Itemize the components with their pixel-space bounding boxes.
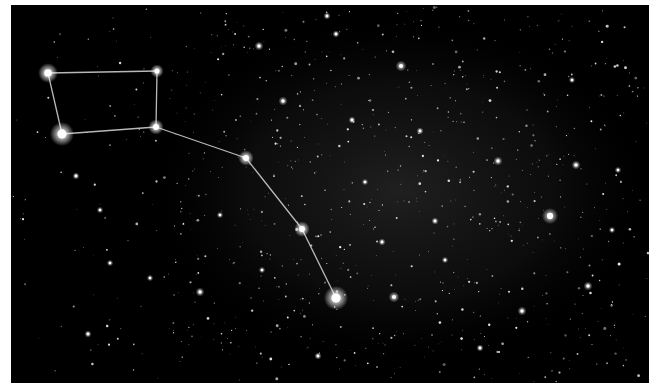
- star: [617, 169, 620, 172]
- star: [364, 181, 367, 184]
- star: [99, 209, 102, 212]
- star: [434, 220, 437, 223]
- star: [611, 229, 614, 232]
- star: [547, 213, 553, 219]
- star: [351, 119, 354, 122]
- star: [326, 15, 329, 18]
- milky-way-glow: [140, 10, 649, 370]
- star: [335, 33, 338, 36]
- star: [392, 295, 396, 299]
- star: [198, 290, 202, 294]
- star-phecda: [153, 124, 159, 130]
- star: [399, 64, 403, 68]
- star: [496, 159, 500, 163]
- star-merak: [57, 129, 66, 138]
- star: [149, 277, 152, 280]
- star: [219, 214, 222, 217]
- star-megrez: [154, 68, 159, 73]
- star: [281, 99, 285, 103]
- star-field-photo: [11, 5, 649, 383]
- star: [381, 241, 384, 244]
- nebula-glow: [140, 10, 649, 370]
- star: [444, 259, 447, 262]
- star-dubhe: [44, 69, 52, 77]
- star: [109, 262, 112, 265]
- star: [419, 130, 422, 133]
- star: [520, 309, 524, 313]
- star: [479, 347, 482, 350]
- star: [574, 163, 578, 167]
- star-alioth: [243, 155, 249, 161]
- star: [317, 355, 320, 358]
- star-alkaid: [331, 293, 340, 302]
- star: [571, 79, 574, 82]
- star: [586, 284, 590, 288]
- star: [261, 269, 264, 272]
- star: [75, 175, 78, 178]
- star-mizar: [299, 226, 305, 232]
- sky-canvas: [11, 5, 649, 383]
- star: [257, 44, 261, 48]
- star: [87, 333, 90, 336]
